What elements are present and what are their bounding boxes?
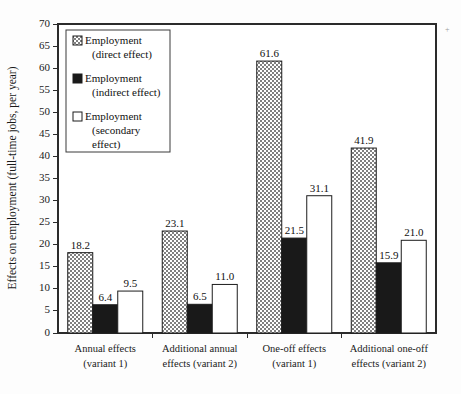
y-tick-label: 40	[39, 149, 51, 161]
bar-chart: 0510152025303540455055606570 18.26.49.52…	[0, 0, 461, 394]
bar-2-0	[118, 291, 143, 333]
x-axis-category-label: One-off effects(variant 1)	[263, 343, 326, 370]
bar-2-3	[401, 240, 426, 333]
bar-value-label: 18.2	[71, 239, 90, 251]
bar-value-label: 21.5	[285, 224, 305, 236]
x-axis-ticks	[153, 333, 342, 338]
x-axis-category-label: Additional one-offeffects (variant 2)	[350, 343, 429, 370]
y-tick-label: 10	[39, 281, 51, 293]
x-axis-category-label: Annual effects(variant 1)	[75, 343, 136, 370]
scan-artifact: +	[445, 25, 450, 34]
bar-value-label: 23.1	[165, 217, 184, 229]
y-tick-label: 35	[39, 171, 51, 183]
y-tick-label: 70	[39, 17, 51, 29]
bar-1-2	[282, 238, 307, 333]
y-tick-label: 30	[39, 193, 51, 205]
bar-value-label: 31.1	[310, 182, 329, 194]
bar-0-2	[257, 61, 282, 333]
y-tick-label: 65	[39, 39, 51, 51]
svg-text:Effects on employment (full-ti: Effects on employment (full-time jobs, p…	[6, 66, 19, 289]
bar-value-label: 9.5	[123, 277, 137, 289]
bar-value-label: 6.4	[98, 291, 112, 303]
bar-1-3	[376, 263, 401, 333]
bar-0-3	[351, 148, 376, 333]
bar-value-label: 11.0	[215, 270, 234, 282]
y-tick-label: 20	[39, 237, 51, 249]
legend-swatch-1	[73, 74, 82, 83]
y-tick-label: 15	[39, 259, 51, 271]
y-tick-label: 5	[45, 303, 51, 315]
bar-value-label: 41.9	[354, 134, 374, 146]
y-axis-ticks: 0510152025303540455055606570	[39, 17, 58, 338]
y-axis-title: Effects on employment (full-time jobs, p…	[6, 66, 19, 289]
bar-value-label: 15.9	[379, 249, 399, 261]
y-tick-label: 0	[45, 326, 51, 338]
x-axis-labels: Annual effects(variant 1)Additional annu…	[75, 343, 429, 370]
bar-2-1	[212, 284, 237, 333]
bar-0-1	[162, 231, 187, 333]
y-tick-label: 50	[39, 105, 51, 117]
bar-0-0	[68, 253, 93, 333]
bar-value-label: 21.0	[404, 226, 424, 238]
y-tick-label: 55	[39, 83, 51, 95]
bar-1-0	[93, 305, 118, 333]
bar-value-label: 6.5	[193, 290, 207, 302]
chart-page: 0510152025303540455055606570 18.26.49.52…	[0, 0, 461, 394]
bar-2-2	[307, 196, 332, 333]
bar-value-label: 61.6	[260, 47, 280, 59]
legend-swatch-0	[73, 36, 82, 45]
legend-swatch-2	[73, 112, 82, 121]
y-tick-label: 25	[39, 215, 51, 227]
y-tick-label: 60	[39, 61, 51, 73]
bar-1-1	[187, 304, 212, 333]
x-axis-category-label: Additional annualeffects (variant 2)	[162, 343, 238, 370]
y-tick-label: 45	[39, 127, 51, 139]
chart-legend: Employment(direct effect)Employment(indi…	[66, 30, 170, 152]
